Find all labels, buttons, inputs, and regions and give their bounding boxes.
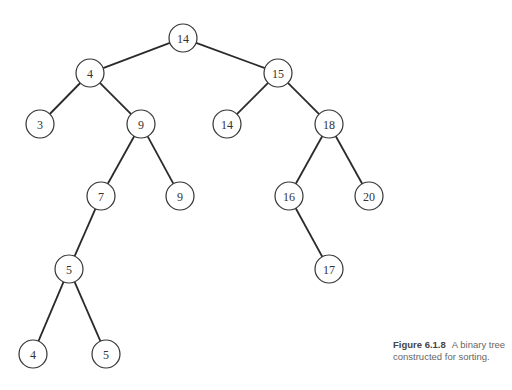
tree-node: 17 [315,255,343,283]
tree-node: 15 [264,59,292,87]
binary-tree-diagram: 1441539141879162051745 [0,0,512,390]
tree-edge [75,209,96,256]
tree-node: 9 [166,182,194,210]
tree-edge [50,83,80,114]
node-label: 9 [177,190,183,204]
node-label: 5 [103,348,109,362]
tree-edge [288,83,319,114]
tree-node: 5 [92,340,120,368]
node-label: 3 [37,118,43,132]
node-label: 17 [323,263,335,277]
node-label: 14 [221,118,233,132]
node-label: 5 [66,263,72,277]
node-label: 9 [138,118,144,132]
figure-caption: Figure 6.1.8A binary tree constructed fo… [393,339,512,363]
tree-node: 7 [87,182,115,210]
node-label: 20 [363,190,375,204]
node-label: 4 [87,67,93,81]
tree-node: 9 [127,110,155,138]
tree-edge [75,282,101,341]
tree-edge [196,43,265,68]
figure-number: Figure 6.1.8 [393,339,446,350]
node-label: 16 [283,190,295,204]
node-label: 4 [30,348,36,362]
node-label: 15 [272,67,284,81]
tree-edge [108,136,134,184]
tree-node: 5 [55,255,83,283]
tree-node: 20 [355,182,383,210]
tree-node: 4 [76,59,104,87]
tree-edge [103,43,170,68]
node-label: 14 [177,32,189,46]
tree-edge [100,83,131,114]
tree-edge [296,208,323,256]
tree-nodes: 1441539141879162051745 [19,24,383,368]
tree-node: 18 [315,110,343,138]
tree-node: 14 [213,110,241,138]
tree-edge [296,136,322,184]
tree-node: 3 [26,110,54,138]
tree-edge [148,136,174,183]
node-label: 18 [323,118,335,132]
tree-node: 4 [19,340,47,368]
tree-edge [38,282,63,341]
tree-node: 14 [169,24,197,52]
tree-edge [336,136,362,184]
node-label: 7 [98,190,104,204]
tree-edge [237,83,268,114]
tree-node: 16 [275,182,303,210]
